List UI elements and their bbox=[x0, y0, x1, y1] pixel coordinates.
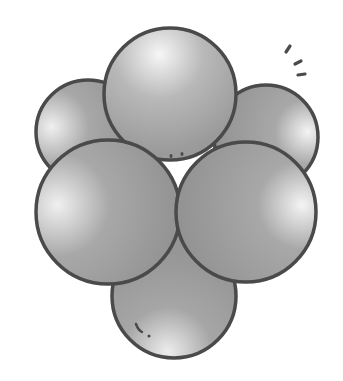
sphere-cluster-drawing bbox=[0, 0, 343, 381]
motion-marks-icon bbox=[286, 46, 305, 75]
sphere-front-left bbox=[36, 140, 180, 284]
highlight-dot bbox=[147, 334, 150, 337]
illustration-canvas: cluster of six spheres bbox=[0, 0, 343, 381]
sphere-front-right bbox=[176, 142, 316, 282]
